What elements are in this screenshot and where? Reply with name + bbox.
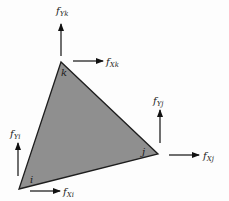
node-label-k: k [61, 67, 67, 78]
force-label-fyi: fYi [9, 128, 20, 141]
triangle-element-diagram: k j i fYk fXk fYj fXj fYi fXi [0, 0, 229, 201]
force-label-fxi: fXi [62, 186, 74, 199]
force-label-fyk: fYk [55, 5, 69, 18]
node-label-i: i [30, 174, 33, 185]
force-label-fxk: fXk [105, 56, 119, 69]
diagram-canvas: k j i fYk fXk fYj fXj fYi fXi [0, 0, 229, 201]
force-label-fyj: fYj [152, 95, 164, 108]
force-label-fxj: fXj [202, 150, 215, 163]
triangular-element [19, 62, 158, 189]
